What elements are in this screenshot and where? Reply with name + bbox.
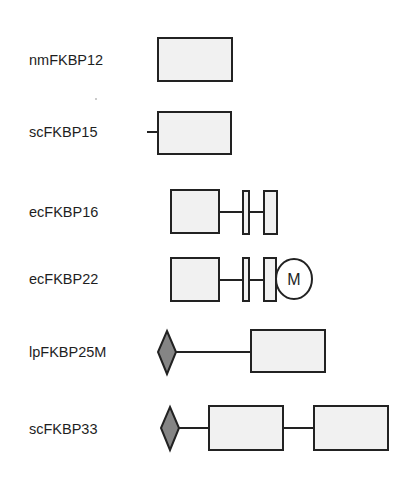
membrane-domain-label: M (287, 271, 300, 288)
fkbp-domain (251, 330, 325, 372)
c-terminal-segment (264, 191, 277, 234)
scfkbp15-domains (147, 112, 231, 154)
fkbp-domain (171, 258, 219, 301)
fkbp-domain-2 (314, 406, 388, 450)
thin-segment (243, 258, 249, 301)
fkbp-domain (158, 38, 232, 81)
fkbp-domain (171, 190, 219, 233)
domain-architecture-diagram: M (0, 0, 411, 480)
fkbp-domain-1 (209, 406, 283, 450)
lpfkbp25m-domains (158, 330, 325, 374)
thin-segment (243, 191, 249, 234)
signal-peptide-diamond (158, 331, 176, 374)
scfkbp33-domains (161, 406, 388, 450)
c-terminal-segment (264, 258, 276, 301)
nmfkbp12-domains (158, 38, 232, 81)
fkbp-domain (158, 112, 231, 154)
ecfkbp16-domains (171, 190, 277, 234)
stray-dot (95, 98, 97, 100)
signal-peptide-diamond (161, 407, 179, 450)
